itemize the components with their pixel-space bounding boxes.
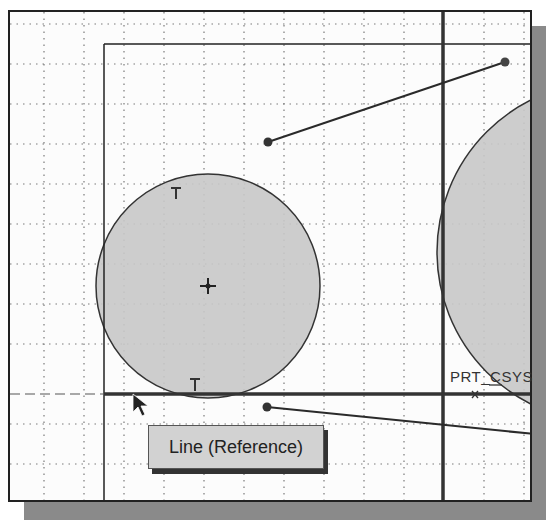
lower-line-start-point[interactable]: [263, 403, 272, 412]
upper-line-start-point[interactable]: [264, 138, 273, 147]
upper-line-end-point[interactable]: [501, 58, 510, 67]
tooltip: Line (Reference): [148, 425, 324, 469]
tooltip-text: Line (Reference): [169, 437, 303, 458]
mouse-pointer-icon: [132, 393, 150, 419]
coordinate-system-label: PRT_CSYS: [450, 368, 533, 385]
upper-line[interactable]: [268, 62, 505, 142]
